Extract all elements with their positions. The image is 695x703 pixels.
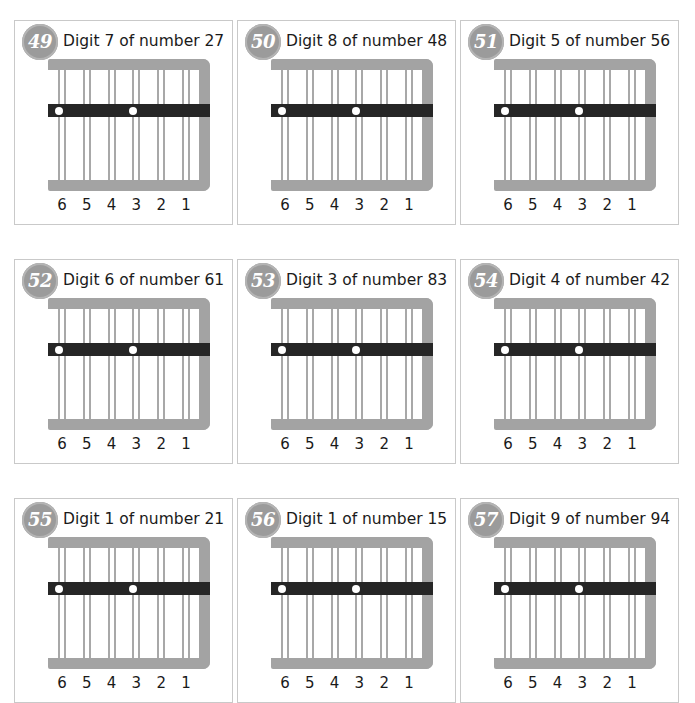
exercise-number-badge: 55 xyxy=(22,502,58,538)
abacus-bottom-bar xyxy=(494,658,656,669)
abacus-column-label: 5 xyxy=(79,673,95,693)
abacus-widget[interactable]: 654321 xyxy=(271,59,441,219)
abacus-bottom-bar xyxy=(271,419,433,430)
abacus-column-label: 5 xyxy=(79,434,95,454)
abacus-rod xyxy=(306,298,308,430)
abacus-widget[interactable]: 654321 xyxy=(494,298,664,458)
abacus-rod xyxy=(89,59,91,191)
exercise-panel[interactable]: 54Digit 4 of number 42654321 xyxy=(460,259,679,464)
abacus-widget[interactable]: 654321 xyxy=(271,298,441,458)
abacus-rod xyxy=(58,537,60,669)
abacus-column-labels: 654321 xyxy=(48,673,210,695)
abacus-rod xyxy=(554,59,556,191)
abacus-rod xyxy=(58,59,60,191)
exercise-panel[interactable]: 49Digit 7 of number 27654321 xyxy=(14,20,233,225)
abacus-rod xyxy=(132,298,134,430)
abacus-column-labels: 654321 xyxy=(494,195,656,217)
abacus-bead[interactable] xyxy=(129,107,137,115)
abacus-rod xyxy=(634,298,636,430)
abacus-widget[interactable]: 654321 xyxy=(271,537,441,697)
abacus-rod xyxy=(386,59,388,191)
abacus-rod xyxy=(535,298,537,430)
abacus-rod xyxy=(138,537,140,669)
abacus-right-post xyxy=(645,59,656,191)
abacus-widget[interactable]: 654321 xyxy=(48,59,218,219)
exercise-number-badge: 51 xyxy=(468,24,504,60)
abacus-rod xyxy=(83,537,85,669)
abacus-bead[interactable] xyxy=(55,107,63,115)
abacus-top-bar xyxy=(271,537,433,548)
panel-row: 55Digit 1 of number 2165432156Digit 1 of… xyxy=(14,498,681,703)
abacus-bead[interactable] xyxy=(575,585,583,593)
abacus-rod xyxy=(138,298,140,430)
exercise-panel[interactable]: 52Digit 6 of number 61654321 xyxy=(14,259,233,464)
exercise-panel[interactable]: 51Digit 5 of number 56654321 xyxy=(460,20,679,225)
abacus-column-labels: 654321 xyxy=(48,434,210,456)
abacus-rod xyxy=(405,298,407,430)
abacus-bead[interactable] xyxy=(352,107,360,115)
abacus-widget[interactable]: 654321 xyxy=(48,537,218,697)
abacus-bead[interactable] xyxy=(352,346,360,354)
exercise-panel[interactable]: 53Digit 3 of number 83654321 xyxy=(237,259,456,464)
exercise-panel[interactable]: 55Digit 1 of number 21654321 xyxy=(14,498,233,703)
abacus-bead[interactable] xyxy=(55,585,63,593)
question-text: Digit 6 of number 61 xyxy=(63,265,228,295)
exercise-panel[interactable]: 50Digit 8 of number 48654321 xyxy=(237,20,456,225)
abacus-rod xyxy=(83,298,85,430)
abacus-bead[interactable] xyxy=(352,585,360,593)
abacus-rod xyxy=(411,537,413,669)
panel-header: 54Digit 4 of number 42 xyxy=(461,260,678,300)
abacus-rod xyxy=(182,537,184,669)
abacus-rod xyxy=(281,59,283,191)
abacus-widget[interactable]: 654321 xyxy=(494,59,664,219)
abacus-column-label: 1 xyxy=(624,195,640,215)
abacus-rod xyxy=(331,537,333,669)
abacus-rod xyxy=(157,298,159,430)
abacus-rod xyxy=(188,537,190,669)
abacus-bead[interactable] xyxy=(129,585,137,593)
abacus-bead[interactable] xyxy=(501,107,509,115)
abacus-rod xyxy=(578,537,580,669)
abacus-right-post xyxy=(422,537,433,669)
abacus-widget[interactable]: 654321 xyxy=(48,298,218,458)
abacus-right-post xyxy=(422,298,433,430)
abacus-column-label: 6 xyxy=(54,195,70,215)
exercise-number: 54 xyxy=(468,263,504,299)
abacus-rod xyxy=(108,537,110,669)
abacus-bead[interactable] xyxy=(278,107,286,115)
abacus-right-post xyxy=(199,298,210,430)
abacus-bead[interactable] xyxy=(501,346,509,354)
abacus-column-label: 4 xyxy=(327,195,343,215)
abacus-rod xyxy=(535,59,537,191)
abacus-widget[interactable]: 654321 xyxy=(494,537,664,697)
exercise-number: 50 xyxy=(245,24,281,60)
abacus-bead[interactable] xyxy=(575,346,583,354)
abacus-column-label: 3 xyxy=(351,434,367,454)
exercise-panel[interactable]: 56Digit 1 of number 15654321 xyxy=(237,498,456,703)
abacus-column-labels: 654321 xyxy=(48,195,210,217)
abacus-rod xyxy=(634,59,636,191)
abacus-column-label: 5 xyxy=(525,673,541,693)
exercise-panel[interactable]: 57Digit 9 of number 94654321 xyxy=(460,498,679,703)
abacus-rod xyxy=(64,298,66,430)
abacus-rod xyxy=(312,298,314,430)
abacus-rod xyxy=(578,59,580,191)
panel-header: 56Digit 1 of number 15 xyxy=(238,499,455,539)
abacus-rod xyxy=(380,298,382,430)
abacus-bead[interactable] xyxy=(575,107,583,115)
abacus-column-label: 3 xyxy=(574,673,590,693)
abacus-rod xyxy=(287,298,289,430)
abacus-bead[interactable] xyxy=(278,346,286,354)
abacus-column-label: 2 xyxy=(153,673,169,693)
abacus-column-label: 2 xyxy=(376,195,392,215)
abacus-frame: 654321 xyxy=(271,298,433,430)
abacus-top-bar xyxy=(494,298,656,309)
abacus-frame: 654321 xyxy=(494,298,656,430)
abacus-rod xyxy=(108,298,110,430)
abacus-bead[interactable] xyxy=(129,346,137,354)
question-text: Digit 5 of number 56 xyxy=(509,26,674,56)
abacus-bead[interactable] xyxy=(55,346,63,354)
abacus-rod xyxy=(306,537,308,669)
abacus-bead[interactable] xyxy=(501,585,509,593)
abacus-bead[interactable] xyxy=(278,585,286,593)
